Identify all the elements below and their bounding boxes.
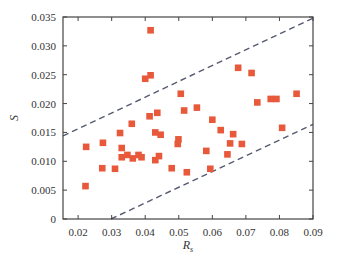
data-point [181, 107, 188, 114]
data-point [83, 144, 90, 151]
data-point [248, 70, 255, 77]
data-point [100, 140, 107, 147]
y-tick-label: 0.020 [31, 98, 56, 110]
y-tick-label: 0 [51, 213, 57, 225]
data-point [147, 27, 154, 34]
data-point [267, 96, 274, 103]
data-point [217, 127, 224, 134]
data-point [207, 165, 214, 172]
y-tick-label: 0.035 [31, 11, 56, 23]
data-point [168, 165, 175, 172]
reference-lines [63, 18, 313, 219]
x-tick-label: 0.06 [203, 226, 223, 238]
x-tick-label: 0.09 [303, 226, 323, 238]
data-point [129, 155, 136, 162]
data-point [230, 131, 237, 138]
data-point [147, 72, 154, 79]
data-point [235, 64, 242, 71]
data-point [156, 153, 163, 160]
data-point [82, 183, 89, 190]
data-point [209, 116, 216, 123]
data-point [184, 169, 191, 176]
x-axis-label: Rs [182, 238, 193, 254]
x-tick-label: 0.05 [169, 226, 189, 238]
x-tick-label: 0.08 [270, 226, 290, 238]
data-point [157, 131, 164, 138]
data-point [273, 96, 280, 103]
data-point [118, 154, 125, 161]
data-point [117, 130, 124, 137]
data-point [177, 90, 184, 97]
data-point [175, 136, 182, 143]
data-point [227, 140, 234, 147]
data-point [203, 148, 210, 155]
data-point [146, 113, 153, 120]
y-tick-label: 0.010 [31, 155, 56, 167]
data-point [138, 154, 145, 161]
x-tick-label: 0.02 [68, 226, 87, 238]
data-points [82, 27, 300, 189]
y-tick-label: 0.005 [31, 184, 56, 196]
y-tick-label: 0.025 [31, 69, 56, 81]
data-point [99, 165, 106, 172]
y-axis-label: S [7, 115, 21, 121]
data-point [224, 151, 231, 158]
x-tick-label: 0.04 [136, 226, 156, 238]
x-tick-label: 0.07 [236, 226, 256, 238]
data-point [154, 110, 161, 117]
data-point [128, 120, 135, 127]
x-tick-label: 0.03 [102, 226, 122, 238]
y-axis-ticks: 00.0050.0100.0150.0200.0250.0300.035 [31, 11, 313, 225]
upper-bound-line [63, 18, 313, 136]
y-tick-label: 0.015 [31, 126, 56, 138]
data-point [279, 125, 286, 132]
data-point [194, 104, 201, 111]
y-tick-label: 0.030 [31, 40, 56, 52]
data-point [254, 99, 261, 106]
data-point [112, 165, 119, 172]
scatter-chart: 0.020.030.040.050.060.070.080.09 00.0050… [0, 0, 340, 264]
data-point [293, 90, 300, 97]
data-point [239, 141, 246, 148]
data-point [118, 145, 125, 152]
